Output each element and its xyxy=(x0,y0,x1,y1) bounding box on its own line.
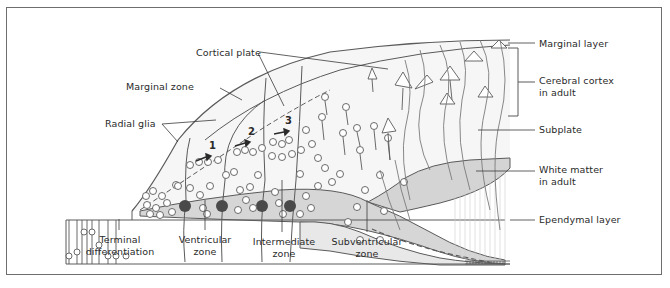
label-marginal-layer: Marginal layer xyxy=(539,38,608,50)
label-ventricular-2: zone xyxy=(193,246,216,258)
label-white-matter-1: White matter xyxy=(539,164,603,176)
cortex-bracket xyxy=(508,48,535,116)
label-ependymal-layer: Ependymal layer xyxy=(539,214,621,226)
label-marginal-zone: Marginal zone xyxy=(126,81,194,93)
label-terminal-2: differentiation xyxy=(86,246,155,258)
label-cerebral-cortex-2: in adult xyxy=(539,87,576,99)
migration-step-3: 3 xyxy=(285,115,292,126)
migration-step-1: 1 xyxy=(209,140,216,151)
label-cerebral-cortex-1: Cerebral cortex xyxy=(539,75,614,87)
label-subplate: Subplate xyxy=(539,124,582,136)
label-ventricular-1: Ventricular xyxy=(179,234,232,246)
label-subventricular-1: Subventricular xyxy=(332,236,403,248)
label-subventricular-2: zone xyxy=(355,248,378,260)
label-intermediate-1: Intermediate xyxy=(253,236,316,248)
label-cortical-plate: Cortical plate xyxy=(196,47,261,59)
label-terminal-1: Terminal xyxy=(100,234,141,246)
label-radial-glia: Radial glia xyxy=(105,118,156,130)
label-intermediate-2: zone xyxy=(272,248,295,260)
label-white-matter-2: in adult xyxy=(539,176,576,188)
migration-step-2: 2 xyxy=(248,126,255,137)
